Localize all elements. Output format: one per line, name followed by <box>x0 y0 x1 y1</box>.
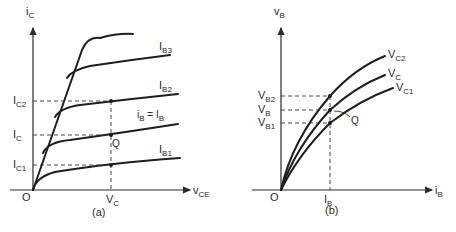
point-ic2 <box>109 99 113 103</box>
curve-ib1 <box>33 158 180 190</box>
curve-label-ib: iB = IB <box>137 109 164 123</box>
origin-label-a: O <box>22 191 31 203</box>
y-tick-ic: IC <box>13 128 22 143</box>
curve-label-vc1: VC1 <box>396 81 414 96</box>
x-tick-vc: VC <box>106 193 119 208</box>
point-q-a <box>109 133 113 137</box>
x-axis-label-b: iB <box>435 184 443 199</box>
y-tick-vb1: VB1 <box>258 116 276 131</box>
curve-ib <box>43 124 178 153</box>
x-axis-label-a: vCE <box>193 184 210 199</box>
point-ic1 <box>109 163 113 167</box>
y-axis-label-b: vB <box>274 5 285 20</box>
curve-label-ib1: IB1 <box>159 143 172 158</box>
point-label-q-a: Q <box>112 138 120 149</box>
caption-b: (b) <box>325 204 338 216</box>
point-label-q-b: Q <box>351 115 359 126</box>
curve-label-vc2: VC2 <box>388 48 406 63</box>
y-axis-label-a: iC <box>26 5 34 20</box>
saturation-line <box>33 34 133 190</box>
point-vb1 <box>328 121 332 125</box>
y-tick-vb2: VB2 <box>258 89 276 104</box>
origin-label-b: O <box>270 191 279 203</box>
panel-a-output-characteristics: iC vCE O VC IC2 IC IC1 IB3 IB2 iB = IB I… <box>10 5 210 218</box>
y-tick-ic2: IC2 <box>13 94 27 109</box>
transistor-characteristics-figure: iC vCE O VC IC2 IC IC1 IB3 IB2 iB = IB I… <box>0 0 456 232</box>
curve-label-ib2: IB2 <box>159 79 172 94</box>
point-vb2 <box>328 94 332 98</box>
curve-ib3 <box>67 55 170 78</box>
curve-label-ib3: IB3 <box>159 40 172 55</box>
y-tick-ic1: IC1 <box>13 158 27 173</box>
curve-label-vc: VC <box>388 67 401 82</box>
panel-b-input-characteristics: vB iB O IB VB2 VB VB1 VC2 VC VC1 Q (b) <box>252 5 443 216</box>
point-q-b <box>328 108 332 112</box>
caption-a: (a) <box>92 206 105 218</box>
